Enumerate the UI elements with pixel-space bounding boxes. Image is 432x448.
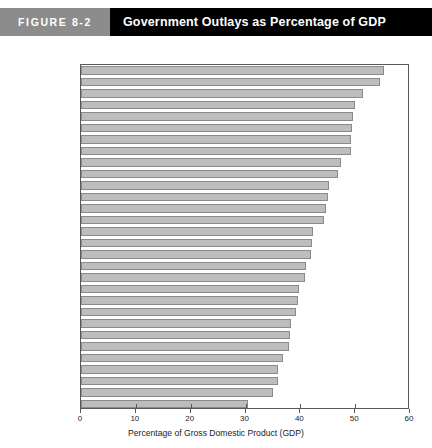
bar-row xyxy=(81,123,408,135)
x-axis-tick-label: 0 xyxy=(78,414,82,423)
bar xyxy=(81,239,312,247)
bar xyxy=(81,388,273,396)
bar-row xyxy=(81,307,408,319)
bar xyxy=(81,400,248,408)
bar-row xyxy=(81,134,408,146)
x-axis: 0102030405060 xyxy=(80,409,409,429)
bar xyxy=(81,319,291,327)
bar-row xyxy=(81,77,408,89)
x-axis-tick xyxy=(135,409,136,413)
x-axis-tick-label: 40 xyxy=(295,414,304,423)
bar xyxy=(81,250,311,258)
bar-row xyxy=(81,376,408,388)
bar-row xyxy=(81,272,408,284)
bar-row xyxy=(81,111,408,123)
x-axis-tick-label: 30 xyxy=(240,414,249,423)
bar-row xyxy=(81,364,408,376)
bar-row xyxy=(81,318,408,330)
bar-row xyxy=(81,215,408,227)
bar xyxy=(81,147,351,155)
bar-row xyxy=(81,180,408,192)
x-axis-inner-tick xyxy=(136,404,137,408)
bar-row xyxy=(81,261,408,273)
bar-row xyxy=(81,157,408,169)
bar-row xyxy=(81,226,408,238)
bar-row xyxy=(81,146,408,158)
x-axis-tick xyxy=(299,409,300,413)
x-axis-tick xyxy=(409,409,410,413)
bar-row xyxy=(81,295,408,307)
bar-row xyxy=(81,169,408,181)
bar xyxy=(81,112,353,120)
bar xyxy=(81,354,283,362)
bar-row xyxy=(81,203,408,215)
bar xyxy=(81,331,290,339)
bar xyxy=(81,193,328,201)
bar xyxy=(81,204,326,212)
bar xyxy=(81,273,305,281)
bar-row xyxy=(81,341,408,353)
x-axis-inner-tick xyxy=(355,404,356,408)
x-axis-tick xyxy=(80,409,81,413)
x-axis-tick-label: 50 xyxy=(350,414,359,423)
bar-row xyxy=(81,284,408,296)
bar-row xyxy=(81,330,408,342)
bar-row xyxy=(81,192,408,204)
x-axis-tick xyxy=(354,409,355,413)
bar xyxy=(81,158,341,166)
bar xyxy=(81,285,299,293)
bar xyxy=(81,101,355,109)
bar xyxy=(81,170,338,178)
bar xyxy=(81,342,289,350)
bar-row xyxy=(81,65,408,77)
x-axis-tick xyxy=(245,409,246,413)
figure-number-badge: FIGURE 8-2 xyxy=(0,8,110,36)
bar xyxy=(81,135,351,143)
bar-row xyxy=(81,238,408,250)
bar-row xyxy=(81,353,408,365)
bar xyxy=(81,78,380,86)
bar xyxy=(81,377,278,385)
bar xyxy=(81,66,384,74)
bar xyxy=(81,262,306,270)
figure-title: Government Outlays as Percentage of GDP xyxy=(123,15,386,29)
bar xyxy=(81,365,278,373)
x-axis-inner-tick xyxy=(300,404,301,408)
bar xyxy=(81,124,352,132)
bar xyxy=(81,296,298,304)
bar-row xyxy=(81,100,408,112)
bar-row xyxy=(81,387,408,399)
bar xyxy=(81,227,313,235)
bar-chart: SwedenFranceDenmarkHungaryAustriaItalyFi… xyxy=(0,40,432,448)
figure-header: FIGURE 8-2 Government Outlays as Percent… xyxy=(0,8,432,36)
x-axis-tick xyxy=(190,409,191,413)
bar-row xyxy=(81,249,408,261)
x-axis-tick-label: 20 xyxy=(185,414,194,423)
x-axis-inner-tick xyxy=(191,404,192,408)
plot-area xyxy=(80,64,409,409)
bar xyxy=(81,308,296,316)
bar xyxy=(81,181,329,189)
x-axis-tick-label: 60 xyxy=(405,414,414,423)
bar xyxy=(81,216,324,224)
x-axis-title: Percentage of Gross Domestic Product (GD… xyxy=(0,428,432,438)
bar xyxy=(81,89,363,97)
bar-row xyxy=(81,88,408,100)
x-axis-inner-tick xyxy=(246,404,247,408)
x-axis-tick-label: 10 xyxy=(130,414,139,423)
